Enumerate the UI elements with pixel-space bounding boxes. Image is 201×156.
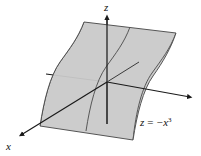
equation-exponent: 3 <box>168 116 172 124</box>
equation-lhs: z <box>139 116 145 128</box>
x-axis-label: x <box>5 140 11 152</box>
z-axis-label: z <box>103 1 109 13</box>
equation-minus-sign: − <box>157 116 163 128</box>
svg-text:z=−x3: z=−x3 <box>139 116 172 128</box>
equation-equals: = <box>147 116 153 128</box>
surface-plot-svg: z x z=−x3 <box>0 0 201 156</box>
equation-label: z=−x3 <box>139 116 172 128</box>
figure-canvas: z x z=−x3 <box>0 0 201 156</box>
